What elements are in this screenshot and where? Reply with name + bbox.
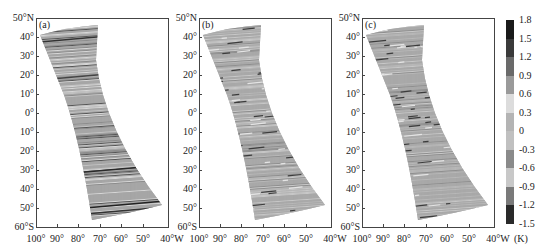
colorbar-tick-label: 0.3 [519,108,532,118]
swath-map-c [0,0,547,252]
colorbar-tick-label: 1.8 [519,15,532,25]
colorbar-tick-label: -0.6 [519,163,535,173]
colorbar-segment [506,76,514,95]
colorbar-segment [506,131,514,150]
colorbar-tick-label: 0.6 [519,89,532,99]
colorbar-tick-label: -1.5 [519,219,535,229]
colorbar-tick-label: -0.9 [519,182,535,192]
colorbar-tick-label: 1.2 [519,52,532,62]
colorbar [506,20,514,224]
colorbar-segment [506,205,514,224]
colorbar-segment [506,20,514,39]
colorbar-segment [506,150,514,169]
colorbar-segment [506,168,514,187]
colorbar-unit-label: (K) [514,233,528,244]
panel-label: (c) [365,19,376,30]
colorbar-tick-label: 1.5 [519,34,532,44]
colorbar-tick-label: 0 [519,126,524,136]
colorbar-tick-label: 0.9 [519,71,532,81]
colorbar-segment [506,113,514,132]
colorbar-segment [506,57,514,76]
colorbar-tick-label: -0.3 [519,145,535,155]
colorbar-segment [506,94,514,113]
colorbar-segment [506,187,514,206]
colorbar-segment [506,39,514,58]
colorbar-tick-label: -1.2 [519,200,535,210]
